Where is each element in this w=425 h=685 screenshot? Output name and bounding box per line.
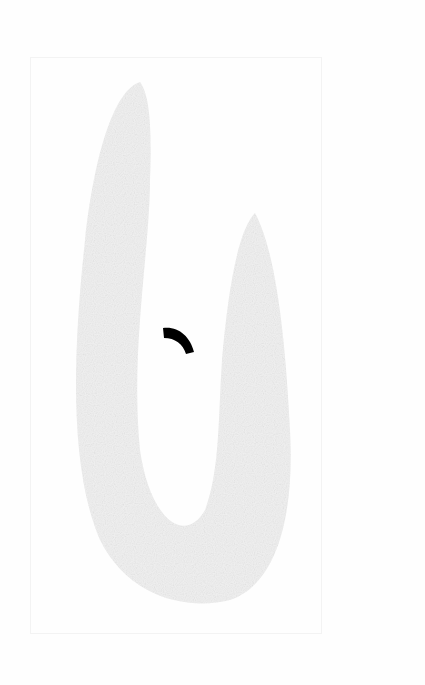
scanned-page	[0, 0, 425, 685]
black-arc-mark	[163, 328, 194, 354]
leaf-illustration	[0, 0, 425, 685]
